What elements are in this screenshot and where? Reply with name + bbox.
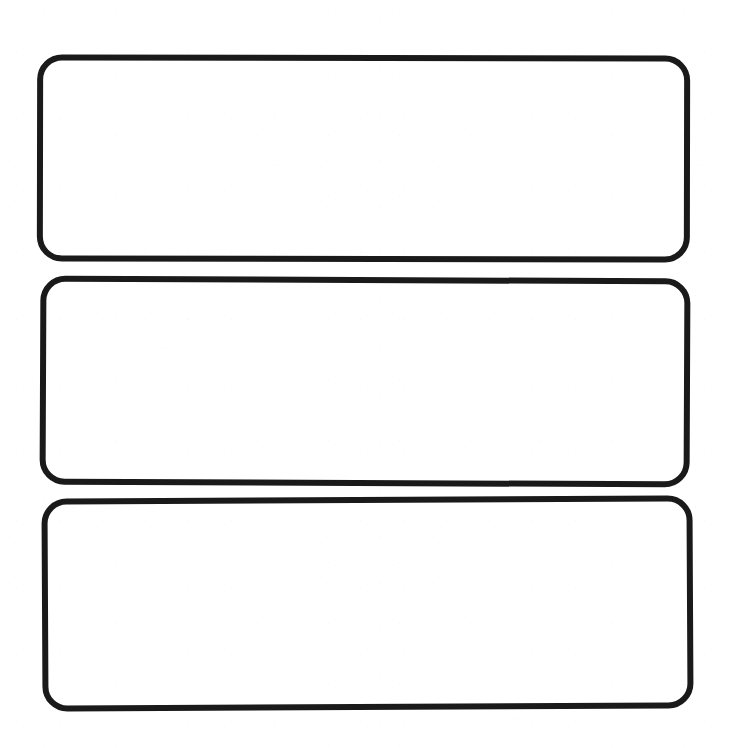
- answer-box-2[interactable]: [40, 276, 691, 488]
- answer-box-1[interactable]: [37, 54, 690, 262]
- answer-box-3[interactable]: [41, 495, 693, 711]
- answer-box-2-text: [46, 282, 685, 482]
- answer-box-3-text: [47, 501, 687, 705]
- page-canvas: [0, 0, 730, 748]
- answer-box-1-text: [43, 60, 684, 256]
